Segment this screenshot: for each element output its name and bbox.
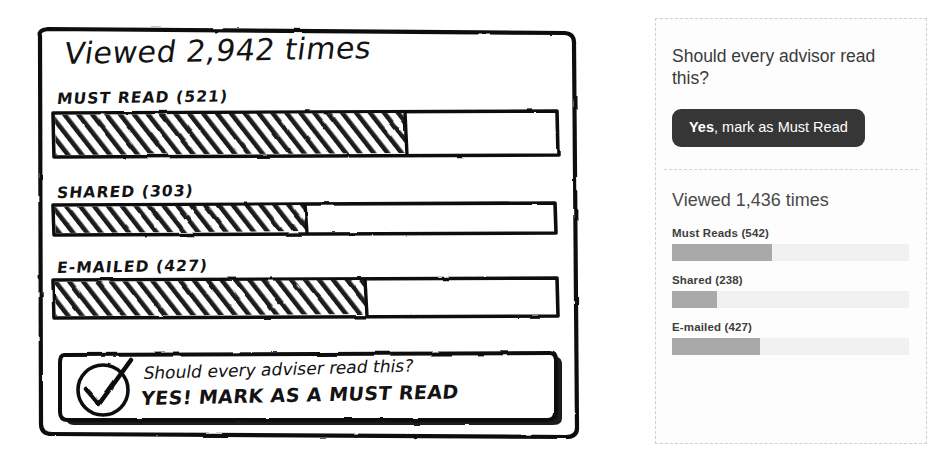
stat-track-must-reads [672,244,909,261]
mark-as-must-read-button[interactable]: Yes, mark as Must Read [672,109,865,147]
sketch-mockup: Viewed 2,942 times MUST READ (521) SHARE… [0,0,620,468]
sketch-bar-label-shared: SHARED (303) [56,182,195,202]
stat-track-emailed [672,338,909,355]
stat-label-emailed: E-mailed (427) [672,321,910,333]
sketch-bar-label-emailed: E-MAILED (427) [56,257,209,277]
button-rest-label: , mark as Must Read [714,119,848,135]
stat-label-shared: Shared (238) [672,274,910,286]
sketch-bar-label-must-read: MUST READ (521) [56,87,229,108]
ask-section: Should every advisor read this? Yes, mar… [656,19,926,169]
stat-track-shared [672,291,909,308]
stats-section: Viewed 1,436 times Must Reads (542) Shar… [656,170,926,355]
button-emphasis-label: Yes [689,119,714,135]
stat-row: Must Reads (542) [672,227,910,261]
stat-label-must-reads: Must Reads (542) [672,227,910,239]
ask-title: Should every advisor read this? [672,45,882,89]
sketch-title: Viewed 2,942 times [62,30,374,71]
stat-fill-must-reads [672,244,772,261]
must-read-panel: Should every advisor read this? Yes, mar… [655,18,927,444]
stat-fill-shared [672,291,717,308]
stats-title: Viewed 1,436 times [672,190,910,211]
stat-fill-emailed [672,338,760,355]
stat-row: Shared (238) [672,274,910,308]
stat-row: E-mailed (427) [672,321,910,355]
